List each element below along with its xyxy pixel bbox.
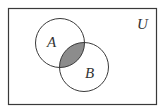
universe-label: U bbox=[137, 16, 149, 32]
set-b-label: B bbox=[85, 65, 94, 81]
universe-rectangle bbox=[9, 9, 157, 105]
venn-diagram: U A B bbox=[0, 0, 165, 109]
set-a-label: A bbox=[46, 34, 57, 50]
